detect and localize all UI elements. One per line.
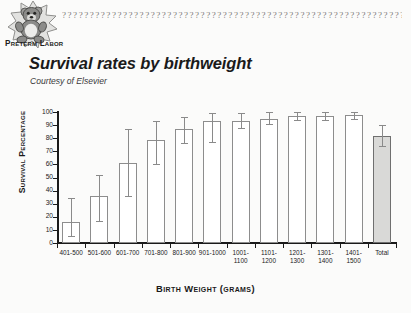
x-axis-tick-label: Total: [368, 249, 396, 257]
logo-caption: Preterm Labor: [5, 39, 63, 48]
error-bar-cap-upper: [379, 125, 386, 126]
y-axis-tick-label: 10: [27, 227, 53, 234]
error-bar-total: [382, 125, 383, 146]
y-axis-tick: [53, 191, 57, 192]
error-bar-cap-lower: [125, 196, 132, 197]
x-axis-tick: [368, 244, 369, 248]
error-bar-cap-lower: [181, 143, 188, 144]
bar-1001-1100: [232, 121, 250, 243]
error-bar-cap-lower: [96, 221, 103, 222]
error-bar-cap-lower: [351, 119, 358, 120]
error-bar-1301-1400: [325, 112, 326, 120]
error-bar-501-600: [99, 175, 100, 221]
y-axis-tick: [53, 230, 57, 231]
error-bar-cap-upper: [153, 121, 160, 122]
error-bar-401-500: [71, 198, 72, 236]
error-bar-cap-upper: [294, 112, 301, 113]
y-axis-tick-labels: 0102030405060708090100: [22, 95, 53, 260]
y-axis-tick-label: 80: [27, 135, 53, 142]
error-bar-cap-upper: [351, 112, 358, 113]
error-bar-cap-lower: [209, 142, 216, 143]
page-subtitle: Courtesy of Elsevier: [30, 76, 107, 86]
y-axis-tick: [53, 178, 57, 179]
y-axis-tick: [53, 164, 57, 165]
x-axis-tick: [227, 244, 228, 248]
error-bar-601-700: [128, 129, 129, 196]
x-axis-tick: [198, 244, 199, 248]
error-bar-cap-lower: [153, 164, 160, 165]
survival-rates-bar-chart: Survival Percentage 01020304050607080901…: [0, 95, 411, 313]
y-axis-tick-label: 30: [27, 200, 53, 207]
x-axis-tick: [396, 244, 397, 248]
x-axis-tick-label: 901-1000: [198, 249, 226, 257]
decorative-question-mark-rule: ????????????????????????????????????????…: [62, 10, 402, 24]
x-axis-tick: [114, 244, 115, 248]
error-bar-901-1000: [212, 113, 213, 142]
error-bar-1201-1300: [297, 112, 298, 120]
bar-1401-1500: [345, 115, 363, 243]
bar-1301-1400: [316, 116, 334, 243]
y-axis-tick: [53, 204, 57, 205]
bar-801-900: [175, 129, 193, 243]
y-axis-tick-label: 20: [27, 213, 53, 220]
x-axis-tick-label: 601-700: [114, 249, 142, 257]
x-axis-tick-label: 1001-1100: [227, 249, 255, 264]
y-axis-tick-label: 70: [27, 148, 53, 155]
x-axis-tick: [57, 244, 58, 248]
y-axis-tick-label: 50: [27, 174, 53, 181]
y-axis-tick: [53, 125, 57, 126]
x-axis-tick-label: 701-800: [142, 249, 170, 257]
x-axis-tick: [170, 244, 171, 248]
error-bar-cap-lower: [379, 146, 386, 147]
error-bar-cap-lower: [266, 124, 273, 125]
y-axis-tick: [53, 151, 57, 152]
x-axis-tick: [311, 244, 312, 248]
error-bar-cap-lower: [68, 236, 75, 237]
y-axis-tick-label: 90: [27, 122, 53, 129]
error-bar-1101-1200: [269, 112, 270, 124]
error-bar-cap-lower: [294, 120, 301, 121]
x-axis-tick: [85, 244, 86, 248]
error-bar-cap-upper: [209, 113, 216, 114]
error-bar-cap-upper: [68, 198, 75, 199]
y-axis-tick: [53, 112, 57, 113]
error-bar-cap-upper: [322, 112, 329, 113]
error-bar-cap-upper: [238, 113, 245, 114]
x-axis-tick: [283, 244, 284, 248]
x-axis-tick-label: 501-600: [85, 249, 113, 257]
page-title: Survival rates by birthweight: [29, 54, 252, 73]
x-axis-tick-label: 401-500: [57, 249, 85, 257]
bar-total: [373, 136, 391, 243]
error-bar-801-900: [184, 117, 185, 143]
x-axis-tick: [255, 244, 256, 248]
bar-1101-1200: [260, 119, 278, 243]
page-header: Preterm Labor ??????????????????????????…: [0, 0, 411, 50]
y-axis-tick-label: 60: [27, 161, 53, 168]
x-axis-tick: [142, 244, 143, 248]
x-axis-tick-label: 801-900: [170, 249, 198, 257]
plot-area: [57, 112, 396, 243]
error-bar-1001-1100: [241, 113, 242, 127]
x-axis-tick-label: 1201-1300: [283, 249, 311, 264]
error-bar-cap-lower: [322, 120, 329, 121]
x-axis-tick-labels: 401-500501-600601-700701-800801-900901-1…: [57, 249, 397, 279]
error-bar-cap-upper: [181, 117, 188, 118]
error-bar-cap-lower: [238, 128, 245, 129]
y-axis-tick: [53, 217, 57, 218]
error-bar-cap-upper: [96, 175, 103, 176]
error-bar-cap-upper: [266, 112, 273, 113]
bar-1201-1300: [288, 116, 306, 243]
y-axis-tick-label: 40: [27, 187, 53, 194]
x-axis-tick-label: 1401-1500: [340, 249, 368, 264]
y-axis-tick-label: 0: [27, 240, 53, 247]
error-bar-701-800: [156, 121, 157, 164]
x-axis-tick: [340, 244, 341, 248]
error-bar-cap-upper: [125, 129, 132, 130]
y-axis-tick-label: 100: [27, 109, 53, 116]
x-axis-tick-label: 1101-1200: [255, 249, 283, 264]
x-axis-tick-label: 1301-1400: [311, 249, 339, 264]
x-axis-title: Birth Weight (grams): [0, 283, 411, 294]
y-axis-tick: [53, 138, 57, 139]
